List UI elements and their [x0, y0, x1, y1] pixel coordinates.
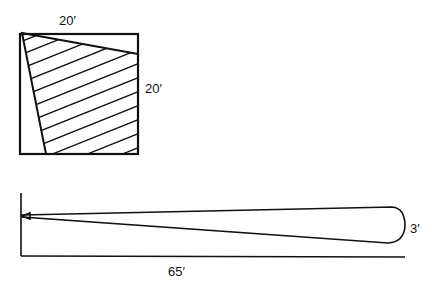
- diagram-canvas: [0, 0, 445, 285]
- floor-line: [21, 256, 405, 257]
- beam-length-label: 65′: [168, 265, 185, 278]
- top-figure: [0, 0, 200, 217]
- fixture-icon: [22, 213, 30, 219]
- beam-outline: [22, 207, 405, 243]
- coverage-triangle: [22, 33, 138, 154]
- room-square: [20, 34, 138, 154]
- top-height-label: 20′: [145, 82, 162, 95]
- top-width-label: 20′: [59, 14, 76, 27]
- beam-spread-label: 3′: [410, 222, 420, 235]
- bottom-figure: [21, 193, 405, 257]
- hatch-lines: [0, 0, 200, 217]
